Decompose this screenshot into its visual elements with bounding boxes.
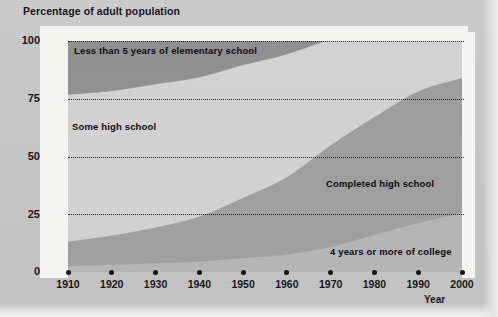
gridline-50 <box>68 157 464 158</box>
page-edge-bottom <box>0 303 498 317</box>
xtick-dot-1920 <box>109 270 114 275</box>
plot-paper-margin-right <box>462 32 475 278</box>
xtick-label-1950: 1950 <box>223 278 263 290</box>
ytick-label-0: 0 <box>14 265 40 277</box>
band-label-completed-high-school: Completed high school <box>326 178 434 189</box>
xtick-label-1930: 1930 <box>136 278 176 290</box>
xtick-label-1970: 1970 <box>311 278 351 290</box>
ytick-label-75: 75 <box>14 92 40 104</box>
page-edge-right <box>482 0 498 317</box>
gridline-75 <box>68 99 464 100</box>
xtick-dot-1980 <box>372 270 377 275</box>
band-label-elementary: Less than 5 years of elementary school <box>74 45 257 56</box>
xtick-dot-1960 <box>284 270 289 275</box>
xtick-label-1960: 1960 <box>267 278 307 290</box>
xtick-dot-1990 <box>416 270 421 275</box>
band-label-some-high-school: Some high school <box>72 121 156 132</box>
xtick-dot-1910 <box>66 270 71 275</box>
ytick-label-25: 25 <box>14 208 40 220</box>
ytick-label-100: 100 <box>14 34 40 46</box>
xtick-dot-2000 <box>460 270 465 275</box>
chart-title: Percentage of adult population <box>23 5 180 17</box>
xtick-dot-1970 <box>328 270 333 275</box>
gridline-100 <box>68 41 464 42</box>
gridline-25 <box>68 214 464 215</box>
xtick-label-1920: 1920 <box>92 278 132 290</box>
xtick-label-1910: 1910 <box>48 278 88 290</box>
xtick-dot-1950 <box>241 270 246 275</box>
band-label-college: 4 years or more of college <box>330 246 452 257</box>
plot-paper-margin-left <box>40 32 68 278</box>
xtick-label-1940: 1940 <box>179 278 219 290</box>
xtick-dot-1930 <box>153 270 158 275</box>
xtick-label-2000: 2000 <box>442 278 482 290</box>
plot-paper-margin-top <box>40 26 468 42</box>
xtick-label-1990: 1990 <box>398 278 438 290</box>
xtick-label-1980: 1980 <box>354 278 394 290</box>
xtick-dot-1940 <box>197 270 202 275</box>
ytick-label-50: 50 <box>14 150 40 162</box>
